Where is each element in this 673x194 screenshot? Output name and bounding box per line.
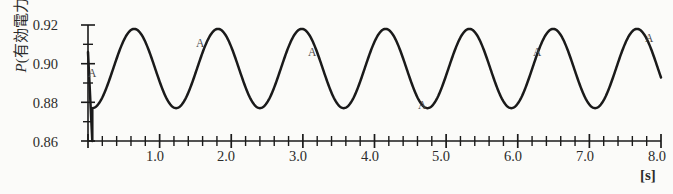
annotation-label: A — [308, 47, 316, 59]
annotation-label: A — [645, 33, 653, 45]
chart-figure: P(有効電力)[p.u] 0.92 0.90 0.88 0.86 1.0 2.0… — [0, 0, 673, 194]
annotation-label: A — [196, 38, 204, 50]
chart-plot-area — [0, 0, 673, 194]
data-series-line — [88, 29, 661, 141]
annotation-label: A — [88, 68, 96, 80]
annotation-label: A — [418, 100, 426, 112]
annotation-label: A — [533, 47, 541, 59]
x-axis-ticks — [88, 134, 661, 148]
